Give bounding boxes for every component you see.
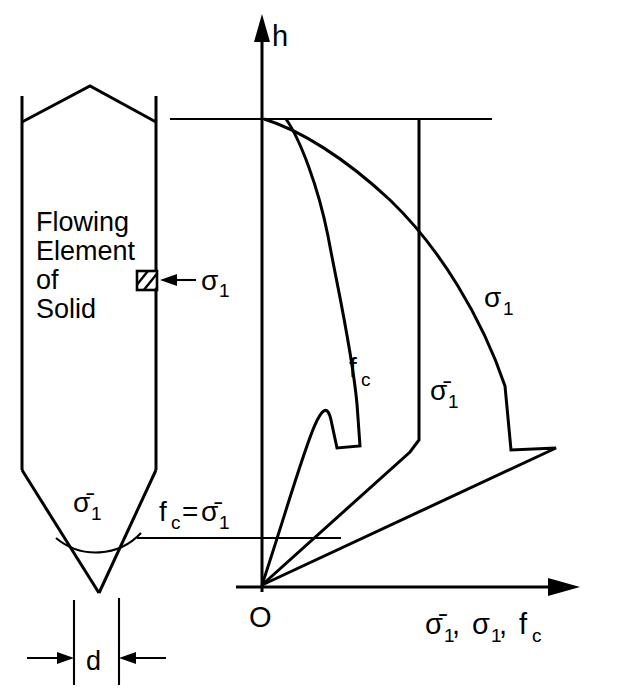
- dimension-arrow-left-icon: [57, 652, 74, 664]
- fc-equals-sigmabar-label: f c = σ̄ 1: [159, 496, 230, 533]
- haxis-sep2: ,: [499, 608, 515, 640]
- hopper-body-label-line-1: Flowing: [36, 207, 129, 237]
- dimension-arrow-right-icon: [119, 652, 136, 664]
- haxis-sep1: ,: [452, 608, 468, 640]
- origin-label: O: [249, 601, 272, 633]
- hopper-group: [22, 86, 196, 685]
- fc-ref-sub: c: [171, 512, 181, 533]
- cone-angle-label: σ̄ 1: [73, 487, 102, 524]
- hopper-heap-profile: [22, 86, 156, 122]
- curve-sigma-1: [262, 119, 556, 585]
- element-stress-symbol: σ: [201, 265, 218, 296]
- diagram-canvas: Flowing Element of Solid σ 1 σ̄ 1 d h O …: [0, 0, 621, 689]
- curve-label-sigmabar-sub: 1: [448, 391, 459, 412]
- vertical-axis-label: h: [272, 20, 288, 52]
- horizontal-axis-label: σ̄ 1 , σ 1 , f c: [425, 608, 542, 646]
- curve-label-fc-sub: c: [361, 369, 371, 390]
- left-arrow-icon: [160, 274, 177, 286]
- curve-label-sigma-1: σ 1: [484, 282, 514, 319]
- hopper-body-label-line-4: Solid: [36, 294, 96, 324]
- curve-fc: [262, 119, 360, 585]
- fc-ref-sub2: 1: [219, 512, 230, 533]
- fc-ref-equals: =: [182, 496, 198, 527]
- figure-root: Flowing Element of Solid σ 1 σ̄ 1 d h O …: [0, 0, 621, 689]
- hopper-body-label-line-3: of: [36, 265, 59, 295]
- outlet-dimension-label: d: [86, 646, 101, 676]
- curve-label-fc-base: f: [349, 352, 357, 383]
- element-stress-label: σ 1: [201, 265, 230, 301]
- element-stress-leader: [160, 274, 196, 286]
- element-stress-subscript: 1: [219, 280, 230, 301]
- flowing-element-icon: [131, 266, 168, 300]
- hopper-body-label-line-2: Element: [36, 236, 136, 266]
- haxis-part2-base: σ: [472, 608, 490, 640]
- curve-label-sigma1-sub: 1: [503, 298, 514, 319]
- cone-angle-subscript: 1: [91, 503, 102, 524]
- right-arrow-icon: [548, 578, 580, 596]
- curve-label-sigma-bar-1: σ̄ 1: [430, 375, 459, 412]
- hopper-cone-right-wall: [99, 470, 156, 593]
- fc-ref-base: f: [159, 496, 167, 527]
- haxis-part3-sub: c: [532, 625, 542, 646]
- curve-label-fc: f c: [349, 352, 371, 390]
- haxis-part3-base: f: [519, 608, 528, 640]
- up-arrow-icon: [254, 14, 270, 42]
- curve-label-sigma1-base: σ: [484, 282, 501, 313]
